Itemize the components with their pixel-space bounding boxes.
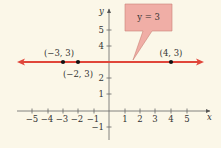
x-tick-label: −5 [26,114,39,124]
y-tick-label: −1 [91,122,104,132]
x-axis: −5 −4 −3 −2 −1 1 2 3 4 5 x [17,109,212,125]
x-tick-label: −4 [41,114,54,124]
coordinate-plane-diagram: −5 −4 −3 −2 −1 1 2 3 4 5 x 5 4 2 1 −1 y [0,0,221,148]
x-axis-label: x [207,112,212,122]
point-label: (4, 3) [160,48,183,58]
point-label: (−3, 3) [44,48,74,58]
equation-label: y = 3 [136,12,160,22]
x-tick-label: 2 [137,114,142,124]
y-tick-label: 1 [99,89,104,99]
y-axis-label: y [98,6,104,16]
y-tick-label: 5 [99,25,104,35]
x-tick-label: 4 [168,114,173,124]
y-tick-label: 2 [99,73,104,83]
line-y-equals-3 [17,59,204,66]
x-tick-label: −3 [56,114,69,124]
x-tick-label: 3 [152,114,157,124]
x-tick-label: −2 [71,114,84,124]
x-tick-label: 1 [122,114,127,124]
y-tick-label: 4 [99,41,104,51]
point-label: (−2, 3) [63,69,93,79]
x-tick-label: 5 [184,114,189,124]
